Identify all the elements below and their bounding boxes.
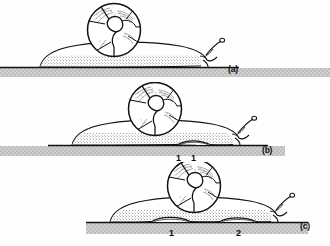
- panel-b: [0, 82, 330, 162]
- wave-number-c-2: 2: [236, 228, 241, 238]
- panel-a: [0, 0, 330, 82]
- panel-label-a: (a): [228, 64, 238, 74]
- wave-number-c-1: 1: [169, 228, 174, 238]
- panel-b-drawing: [0, 82, 330, 162]
- snail-locomotion-figure: (a) (b) (c) 1 1 1 2: [0, 0, 330, 246]
- snail-shell-b: [129, 83, 182, 136]
- substrate-a: [0, 68, 330, 78]
- panel-c-drawing: [0, 162, 330, 246]
- wave-number-b-1: 1: [191, 153, 196, 163]
- panel-c: [0, 162, 330, 246]
- substrate-b: [0, 146, 285, 157]
- panel-label-c: (c): [300, 221, 310, 231]
- panel-label-b: (b): [262, 145, 272, 155]
- snail-shell-a: [88, 4, 141, 57]
- snail-shell-c: [168, 162, 221, 213]
- panel-a-drawing: [0, 0, 330, 82]
- substrate-c: [86, 223, 308, 235]
- wave-number-c-top: 1: [176, 153, 181, 163]
